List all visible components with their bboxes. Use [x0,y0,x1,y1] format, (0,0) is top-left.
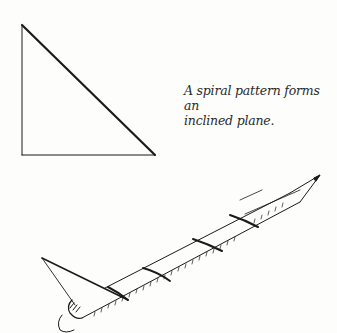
figure-caption: A spiral pattern forms an inclined plane… [184,83,334,128]
figure-page: A spiral pattern forms an inclined plane… [0,0,337,333]
right-triangle-illustration [22,25,155,155]
caption-line-2: inclined plane. [184,113,334,128]
illustration-canvas [0,0,337,333]
caption-line-1: A spiral pattern forms an [184,83,334,113]
pencil-illustration [42,175,320,332]
